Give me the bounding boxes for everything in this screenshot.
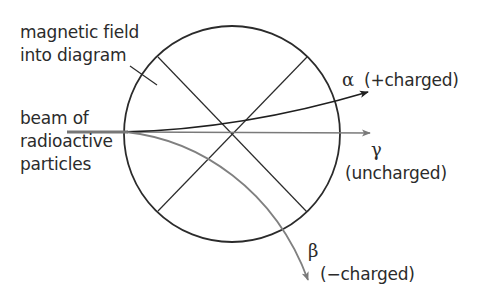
alpha-path-arrow: [126, 92, 368, 132]
beam-label-line-3: particles: [20, 153, 91, 175]
gamma-symbol: γ: [371, 139, 382, 161]
beam-label-line-2: radioactive: [20, 130, 113, 152]
field-label-line-2: into diagram: [20, 44, 126, 66]
field-label-line-1: magnetic field: [20, 21, 139, 43]
beta-symbol: β: [308, 240, 318, 262]
beam-label-line-1: beam of: [20, 107, 89, 129]
gamma-charge-label: (uncharged): [345, 162, 447, 184]
gamma-path-arrow: [126, 132, 370, 133]
beta-path-arrow: [126, 132, 308, 280]
field-label-pointer: [130, 66, 157, 85]
alpha-symbol: α: [342, 69, 354, 91]
beta-charge-label: (−charged): [320, 263, 415, 285]
alpha-charge-label: (+charged): [364, 69, 459, 91]
